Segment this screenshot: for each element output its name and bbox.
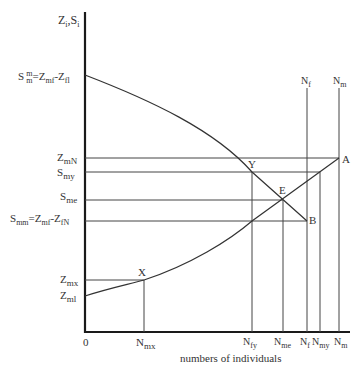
label-smm: Smm=Zmf-ZfN [10, 212, 69, 227]
label-zmx: Zmx [60, 273, 79, 288]
point-B: B [309, 214, 316, 226]
label-smm-top: Smm=Zmf-Zfl [18, 69, 70, 85]
point-E: E [279, 184, 286, 196]
upper-curve [85, 75, 307, 221]
point-A: A [342, 153, 350, 165]
label-nmy: Nmy [312, 336, 329, 350]
top-label-nf: Nf [301, 75, 311, 89]
label-nf: Nf [300, 336, 310, 350]
top-label-nm: Nm [333, 75, 347, 89]
x-axis-label: numbers of individuals [180, 352, 281, 364]
y-axis-label: Zi,Si [58, 13, 80, 29]
label-smy: Smy [57, 166, 75, 181]
label-zml: Zml [60, 289, 77, 304]
label-nme: Nme [274, 336, 291, 350]
label-zmN: ZmN [57, 151, 78, 166]
label-sme: Sme [60, 190, 77, 205]
label-nfy: Nfy [243, 336, 257, 350]
point-X: X [138, 266, 146, 278]
equilibrium-diagram: Zi,Si Smm=Zmf-Zfl ZmN Smy Sme Smm=Zmf-Zf… [0, 0, 363, 371]
point-Y: Y [248, 158, 256, 170]
label-nmx: Nmx [136, 336, 156, 351]
label-nm: Nm [334, 336, 348, 350]
origin-label: 0 [83, 336, 89, 348]
lower-curve [85, 158, 339, 296]
